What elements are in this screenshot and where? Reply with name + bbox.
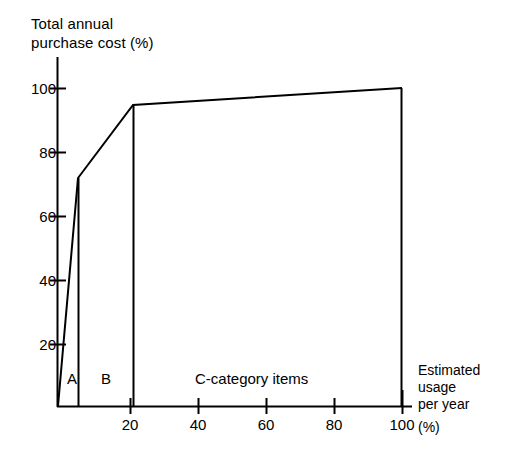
chart-figure: Total annual purchase cost (%) Estimated… bbox=[0, 0, 515, 461]
cumulative-cost-curve bbox=[58, 88, 402, 406]
chart-plot-area bbox=[0, 0, 515, 461]
